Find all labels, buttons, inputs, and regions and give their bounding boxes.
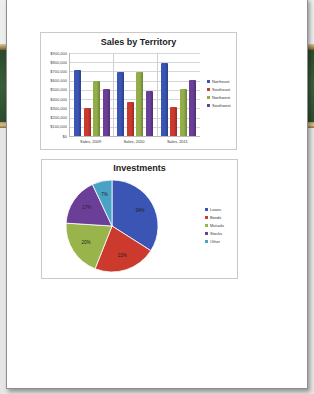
category-divider <box>113 53 114 136</box>
bar-southwest-1 <box>146 91 153 136</box>
legend-label: Stocks <box>210 231 222 236</box>
legend-item-other: Other <box>205 237 224 245</box>
legend-swatch-icon <box>205 232 208 235</box>
bar-northeast-2 <box>161 63 168 136</box>
legend-swatch-icon <box>207 96 210 99</box>
bar-northwest-2 <box>180 89 187 136</box>
y-tick-label: $900,000 <box>41 51 67 56</box>
pie-label-other: 7% <box>101 192 108 197</box>
legend-swatch-icon <box>207 80 210 83</box>
y-tick-label: $300,000 <box>41 106 67 111</box>
legend-item-bonds: Bonds <box>205 213 224 221</box>
legend-item-mutuals: Mutuals <box>205 221 224 229</box>
bar-northeast-0 <box>74 70 81 136</box>
legend-swatch-icon <box>205 240 208 243</box>
legend-item-loans: Loans <box>205 205 224 213</box>
bar-northwest-0 <box>93 81 100 136</box>
legend-swatch-icon <box>205 208 208 211</box>
gridline <box>70 71 200 72</box>
legend-label: Southwest <box>212 103 231 108</box>
legend-label: Northeast <box>212 79 229 84</box>
plot-area <box>69 53 200 137</box>
y-tick-label: $100,000 <box>41 124 67 129</box>
gridline <box>70 81 200 82</box>
bar-chart-sales-by-territory: Sales by Territory $900,000$800,000$700,… <box>40 32 237 150</box>
y-tick-label: $400,000 <box>41 97 67 102</box>
pie-chart-investments: Investments 34%22%20%17%7% LoansBondsMut… <box>41 159 238 279</box>
legend: LoansBondsMutualsStocksOther <box>205 205 224 245</box>
x-tick-label: Sales, 2009 <box>71 139 111 144</box>
legend-item-southeast: Southeast <box>207 85 231 93</box>
legend-label: Mutuals <box>210 223 224 228</box>
legend: NortheastSoutheastNorthwestSouthwest <box>207 77 231 109</box>
bar-southwest-0 <box>103 89 110 136</box>
category-divider <box>157 53 158 136</box>
pie-label-mutuals: 20% <box>82 240 91 245</box>
legend-label: Bonds <box>210 215 221 220</box>
bar-southeast-1 <box>127 102 134 136</box>
legend-item-northeast: Northeast <box>207 77 231 85</box>
pie-label-stocks: 17% <box>82 205 91 210</box>
y-tick-label: $600,000 <box>41 78 67 83</box>
legend-item-northwest: Northwest <box>207 93 231 101</box>
x-tick-label: Sales, 2011 <box>157 139 197 144</box>
legend-swatch-icon <box>207 88 210 91</box>
legend-swatch-icon <box>205 216 208 219</box>
bar-southeast-0 <box>84 108 91 136</box>
document-page: Sales by Territory $900,000$800,000$700,… <box>6 0 308 389</box>
y-tick-label: $800,000 <box>41 60 67 65</box>
pie-label-loans: 34% <box>135 208 144 213</box>
y-tick-label: $0 <box>41 134 67 139</box>
bar-northeast-1 <box>117 72 124 136</box>
legend-label: Northwest <box>212 95 230 100</box>
legend-item-stocks: Stocks <box>205 229 224 237</box>
y-tick-label: $500,000 <box>41 87 67 92</box>
gridline <box>70 62 200 63</box>
bar-southwest-2 <box>189 80 196 136</box>
chart-title: Sales by Territory <box>41 37 236 47</box>
legend-swatch-icon <box>207 104 210 107</box>
gridline <box>70 53 200 54</box>
bar-northwest-1 <box>136 72 143 136</box>
y-tick-label: $700,000 <box>41 69 67 74</box>
y-tick-label: $200,000 <box>41 115 67 120</box>
pie-label-bonds: 22% <box>118 253 127 258</box>
bar-southeast-2 <box>170 107 177 137</box>
legend-item-southwest: Southwest <box>207 101 231 109</box>
x-tick-label: Sales, 2010 <box>114 139 154 144</box>
legend-label: Southeast <box>212 87 230 92</box>
legend-label: Other <box>210 239 220 244</box>
legend-label: Loans <box>210 207 221 212</box>
legend-swatch-icon <box>205 224 208 227</box>
